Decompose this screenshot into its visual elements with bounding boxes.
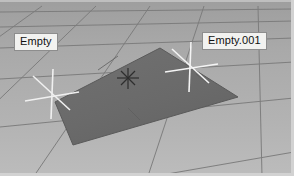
viewport-3d-canvas[interactable]	[0, 0, 294, 176]
viewport-window[interactable]: Empty Empty.001	[0, 0, 294, 176]
object-label-empty-001[interactable]: Empty.001	[202, 32, 267, 50]
object-label-empty[interactable]: Empty	[14, 33, 58, 51]
